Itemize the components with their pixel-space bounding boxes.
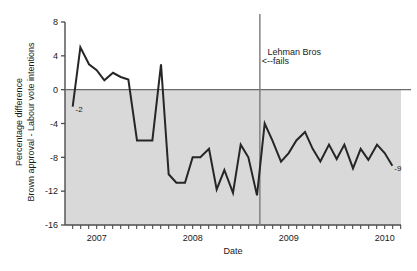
y-tick-label: -4 xyxy=(50,119,58,129)
chart-container: 840-4-8-12-16 2007200820092010 Lehman Br… xyxy=(0,0,417,271)
x-axis-title: Date xyxy=(223,246,242,256)
y-axis-title-line1: Percentage difference xyxy=(14,78,24,166)
y-axis-title-line2: Brown approval - Labour vote intentions xyxy=(26,42,36,202)
y-tick-label: -16 xyxy=(45,220,58,230)
percentage-difference-line-chart: 840-4-8-12-16 2007200820092010 Lehman Br… xyxy=(0,0,417,271)
y-tick-label: -12 xyxy=(45,186,58,196)
x-tick-label: 2007 xyxy=(87,233,107,243)
y-tick-label: 8 xyxy=(53,17,58,27)
x-tick-label: 2008 xyxy=(183,233,203,243)
end-value-label: -9 xyxy=(394,164,402,173)
start-value-label: -2 xyxy=(76,105,84,114)
y-tick-label: 4 xyxy=(53,51,58,61)
negative-region-rect xyxy=(65,90,401,225)
x-tick-label: 2009 xyxy=(279,233,299,243)
x-tick-label: 2010 xyxy=(375,233,395,243)
y-tick-label: -8 xyxy=(50,153,58,163)
lehman-fails-annotation-line2: <--fails xyxy=(262,56,290,66)
negative-region-shading xyxy=(65,90,401,225)
y-tick-label: 0 xyxy=(53,85,58,95)
